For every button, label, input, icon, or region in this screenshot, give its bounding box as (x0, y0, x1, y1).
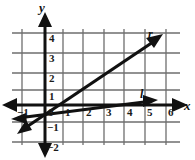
y-tick-label-neg1: −1 (47, 121, 59, 133)
line-label-r: r (148, 27, 153, 41)
x-tick-label-3: 3 (106, 106, 112, 118)
x-tick-label-5: 5 (147, 106, 153, 118)
y-tick-label-neg2: −2 (47, 141, 59, 153)
x-axis (2, 98, 188, 112)
y-tick-label-3: 3 (49, 52, 55, 64)
x-tick-label-neg1: −1 (17, 106, 29, 118)
y-axis-label: y (37, 0, 45, 15)
plot-line-r (17, 34, 163, 134)
x-tick-label-6: 6 (168, 106, 174, 118)
plot-line-l (11, 95, 158, 124)
arrow-left-icon (2, 98, 17, 112)
x-tick-label-2: 2 (86, 106, 92, 118)
graph-canvas: y x r l −1 0 1 2 3 4 5 6 4 3 2 1 −1 −2 (0, 0, 195, 160)
coordinate-plane-graph: y x r l −1 0 1 2 3 4 5 6 4 3 2 1 −1 −2 (0, 0, 195, 160)
y-tick-label-1: 1 (49, 90, 55, 102)
y-tick-label-2: 2 (49, 72, 55, 84)
x-axis-label: x (183, 98, 191, 113)
y-tick-labels: 4 3 2 1 −1 −2 (47, 32, 59, 153)
x-tick-label-1: 1 (65, 106, 71, 118)
horizontal-gridlines (12, 33, 180, 142)
y-tick-label-4: 4 (49, 32, 55, 44)
x-tick-label-0: 0 (48, 106, 54, 118)
x-tick-label-4: 4 (127, 106, 133, 118)
